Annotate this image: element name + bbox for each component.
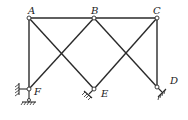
- node-D: [155, 85, 159, 89]
- node-A: [27, 16, 31, 20]
- label-E: E: [100, 88, 109, 99]
- label-D: D: [169, 75, 178, 86]
- node-E: [92, 87, 96, 91]
- truss-diagram: A B C D E F: [0, 0, 188, 120]
- support-F: [15, 83, 36, 105]
- node-F: [27, 87, 31, 91]
- label-C: C: [153, 5, 161, 16]
- label-A: A: [27, 5, 35, 16]
- truss-nodes: [27, 16, 159, 91]
- truss-members: [29, 18, 157, 89]
- label-F: F: [33, 86, 42, 97]
- node-C: [155, 16, 159, 20]
- label-B: B: [90, 5, 98, 16]
- node-B: [92, 16, 96, 20]
